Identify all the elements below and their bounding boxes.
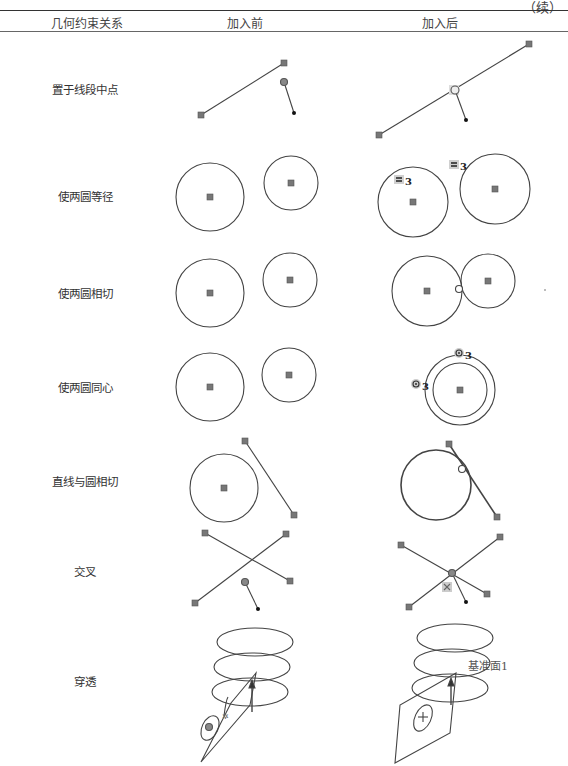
midpoint-before xyxy=(198,60,296,118)
line-tangent-after xyxy=(401,441,500,520)
datum-plane-label: 基准面1 xyxy=(468,660,508,673)
pierce-before: ✲ xyxy=(197,628,293,762)
svg-text:✲: ✲ xyxy=(222,712,229,721)
concentric-after: 3 3 xyxy=(411,348,495,425)
svg-text:3: 3 xyxy=(422,381,429,392)
svg-text:3: 3 xyxy=(460,161,467,172)
intersect-after xyxy=(398,534,503,610)
equal-after: 3 3 xyxy=(378,154,530,237)
tangent-after xyxy=(392,254,546,326)
pierce-after: 基准面1 xyxy=(395,624,508,763)
line-tangent-before xyxy=(190,438,297,522)
midpoint-after xyxy=(376,41,532,138)
equal-before xyxy=(176,156,318,231)
svg-text:3: 3 xyxy=(465,350,472,361)
tangent-before xyxy=(176,253,317,327)
svg-text:3: 3 xyxy=(405,176,412,187)
constraint-figures: 3 3 3 3 xyxy=(0,0,568,766)
concentric-before xyxy=(176,348,316,421)
intersect-before xyxy=(192,530,293,611)
